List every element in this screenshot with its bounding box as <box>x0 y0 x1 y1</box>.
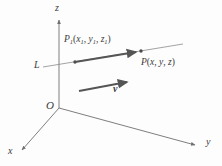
vector-label-v: v <box>113 84 117 94</box>
p1-comma-2: , <box>96 34 98 44</box>
vector-p1-to-p <box>75 52 136 62</box>
point-label-p: P(x, y, z) <box>141 58 175 68</box>
point-label-p1: P1(x1, y1, z1) <box>64 35 111 45</box>
p-close-paren: ) <box>172 57 175 67</box>
vector-line-figure: z y x O L P1(x1, y1, z1) P(x, y, z) v <box>0 0 222 166</box>
p1-close-paren: ) <box>108 34 111 44</box>
axis-x-line <box>22 108 59 150</box>
p-comma-1: , <box>154 57 156 67</box>
vector-v-arrow <box>79 82 127 91</box>
p-comma-2: , <box>163 57 165 67</box>
axis-label-x: x <box>8 146 12 156</box>
line-label-l: L <box>34 60 40 70</box>
origin-label: O <box>46 100 54 111</box>
axis-label-y: y <box>206 137 210 147</box>
point-p-marker <box>139 49 142 52</box>
p1-comma-1: , <box>84 34 86 44</box>
axis-label-z: z <box>55 3 59 13</box>
axis-y-line <box>59 108 195 145</box>
vector-v-group <box>79 82 127 91</box>
figure-canvas <box>0 0 222 166</box>
